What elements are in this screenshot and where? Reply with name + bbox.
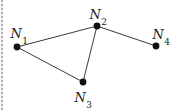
edge-n1-n3 [17,47,83,82]
graph-figure: N1N2N3N4 [0,0,182,110]
node-dot-n3 [80,79,87,86]
node-label-n3: N3 [74,91,91,104]
edge-n1-n2 [17,26,97,47]
node-label-n2: N2 [89,8,106,21]
edge-n2-n3 [83,26,97,82]
node-dot-n4 [153,43,160,50]
node-dot-n1 [14,44,21,51]
node-dot-n2 [94,23,101,30]
node-label-n1: N1 [10,27,27,40]
edge-n2-n4 [97,26,156,46]
node-label-n4: N4 [152,28,169,41]
